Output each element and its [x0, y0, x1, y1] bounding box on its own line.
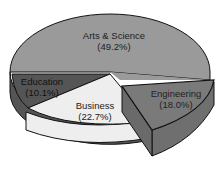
label-name: Engineering	[136, 88, 216, 99]
label-name: Arts & Science	[70, 30, 158, 41]
label-engineering: Engineering (18.0%)	[136, 88, 216, 110]
label-name: Education	[12, 76, 72, 87]
label-name: Business	[60, 100, 130, 111]
label-arts-science: Arts & Science (49.2%)	[70, 30, 158, 52]
label-pct: (18.0%)	[136, 99, 216, 110]
label-pct: (49.2%)	[70, 41, 158, 52]
label-pct: (22.7%)	[60, 111, 130, 122]
label-business: Business (22.7%)	[60, 100, 130, 122]
label-education: Education (10.1%)	[12, 76, 72, 98]
label-pct: (10.1%)	[12, 87, 72, 98]
